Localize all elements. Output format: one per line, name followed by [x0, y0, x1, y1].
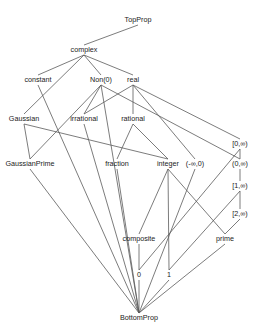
edge-complex-real [84, 55, 133, 75]
edge-twoInf-prime [225, 219, 240, 234]
edge-integer-composite [139, 169, 168, 234]
property-lattice-diagram: TopPropcomplexconstantNon(0)realGaussian… [0, 0, 262, 334]
node-complex: complex [71, 45, 98, 54]
node-real: real [127, 75, 139, 84]
node-BottomProp: BottomProp [120, 313, 158, 322]
node-irrational: irrational [70, 114, 98, 123]
node-TopProp: TopProp [125, 15, 152, 24]
node-zeroInfOpen: (0,∞) [232, 159, 248, 168]
edges [24, 25, 240, 313]
node-constant: constant [24, 75, 51, 84]
node-twoInf: [2,∞) [232, 209, 248, 218]
node-GaussianPrime: GaussianPrime [5, 159, 54, 168]
node-prime: prime [216, 234, 234, 243]
node-fraction: fraction [105, 159, 129, 168]
node-rational: rational [121, 114, 145, 123]
node-integer: integer [157, 159, 180, 168]
node-Gaussian: Gaussian [9, 114, 39, 123]
nodes: TopPropcomplexconstantNon(0)realGaussian… [5, 15, 248, 322]
edge-complex-Non0 [84, 55, 101, 75]
edge-oneInf-one [169, 191, 240, 270]
edge-irrational-BottomProp [84, 124, 139, 313]
edge-rational-integer [133, 124, 168, 159]
edge-complex-Gaussian [24, 55, 84, 114]
node-negInfZero: (-∞,0) [186, 159, 204, 168]
edge-rational-fraction [117, 124, 133, 159]
edge-complex-constant [38, 55, 84, 75]
node-zero: 0 [137, 270, 141, 279]
edge-integer-one [168, 169, 169, 270]
edge-TopProp-complex [84, 25, 138, 45]
node-oneInf: [1,∞) [232, 181, 248, 190]
edge-Gaussian-integer [24, 124, 168, 159]
node-Non0: Non(0) [90, 75, 112, 84]
node-composite: composite [123, 234, 156, 243]
edge-one-BottomProp [139, 280, 169, 313]
node-zeroInfClosed: [0,∞) [232, 139, 248, 148]
edge-Gaussian-GaussianPrime [24, 124, 30, 159]
node-one: 1 [167, 270, 171, 279]
